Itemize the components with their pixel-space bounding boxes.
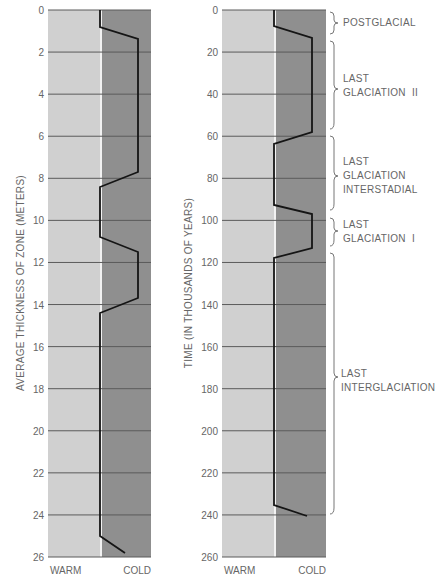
y-tick-label: 260 — [201, 552, 218, 563]
y-tick-label: 16 — [33, 342, 45, 353]
y-tick-label: 6 — [38, 131, 44, 142]
y-tick-label: 40 — [207, 89, 219, 100]
y-tick-label: 80 — [207, 173, 219, 184]
y-tick-label: 20 — [207, 47, 219, 58]
warm-zone — [48, 10, 100, 557]
y-tick-label: 14 — [33, 300, 45, 311]
y-tick-label: 18 — [33, 384, 45, 395]
y-axis-label: TIME (IN THOUSANDS OF YEARS) — [183, 198, 194, 368]
label-interglaciation-line1: LAST — [341, 368, 367, 379]
y-tick-labels: 020406080100120140160180200220240260 — [201, 5, 218, 563]
cold-label: COLD — [298, 565, 326, 576]
cold-zone — [276, 10, 326, 557]
bracket-glaciation-ii — [330, 41, 338, 129]
label-postglacial: POSTGLACIAL — [343, 17, 416, 28]
label-glaciation-i-line2: GLACIATION I — [343, 233, 415, 244]
y-tick-label: 0 — [212, 5, 218, 16]
bracket-glaciation-i — [330, 218, 338, 246]
y-tick-label: 0 — [38, 5, 44, 16]
y-tick-label: 2 — [38, 47, 44, 58]
warm-label: WARM — [224, 565, 255, 576]
y-axis-label: AVERAGE THICKNESS OF ZONE (METERS) — [15, 175, 26, 391]
warm-label: WARM — [50, 565, 81, 576]
y-tick-label: 100 — [201, 215, 218, 226]
right-chart: 020406080100120140160180200220240260 TIM… — [183, 5, 435, 576]
y-tick-label: 10 — [33, 215, 45, 226]
warm-zone — [222, 10, 274, 557]
y-tick-labels: 02468101214161820222426 — [33, 5, 45, 563]
y-tick-label: 220 — [201, 468, 218, 479]
y-tick-label: 240 — [201, 510, 218, 521]
label-interstadial-line2: GLACIATION — [343, 170, 406, 181]
y-tick-label: 26 — [33, 552, 45, 563]
y-tick-label: 160 — [201, 342, 218, 353]
left-chart: 02468101214161820222426 AVERAGE THICKNES… — [15, 5, 151, 576]
label-glaciation-ii-line2: GLACIATION II — [343, 87, 418, 98]
y-tick-label: 180 — [201, 384, 218, 395]
cold-zone — [102, 10, 151, 557]
y-tick-label: 120 — [201, 257, 218, 268]
label-glaciation-i-line1: LAST — [343, 219, 369, 230]
climate-charts: 02468101214161820222426 AVERAGE THICKNES… — [0, 0, 444, 588]
y-tick-label: 60 — [207, 131, 219, 142]
y-tick-label: 200 — [201, 426, 218, 437]
period-brackets — [330, 12, 338, 514]
y-tick-label: 24 — [33, 510, 45, 521]
label-interstadial-line1: LAST — [343, 156, 369, 167]
y-tick-label: 4 — [38, 89, 44, 100]
cold-label: COLD — [123, 565, 151, 576]
label-glaciation-ii-line1: LAST — [343, 73, 369, 84]
bracket-interglaciation — [330, 253, 338, 514]
bracket-interstadial — [330, 136, 338, 210]
period-labels: POSTGLACIAL LAST GLACIATION II LAST GLAC… — [341, 17, 435, 393]
y-tick-label: 12 — [33, 257, 45, 268]
y-tick-label: 22 — [33, 468, 45, 479]
bracket-postglacial — [330, 12, 338, 34]
label-interstadial-line3: INTERSTADIAL — [343, 184, 418, 195]
y-tick-label: 20 — [33, 426, 45, 437]
label-interglaciation-line2: INTERGLACIATION — [341, 382, 435, 393]
y-tick-label: 140 — [201, 300, 218, 311]
y-tick-label: 8 — [38, 173, 44, 184]
